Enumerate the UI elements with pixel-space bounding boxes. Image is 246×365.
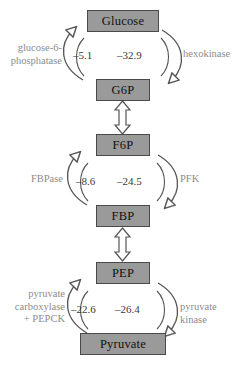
node-glucose: Glucose: [87, 10, 159, 32]
value-fbpase: –8.6: [76, 176, 95, 187]
value-pfk: –24.5: [117, 176, 142, 187]
node-f6p-label: F6P: [113, 139, 134, 152]
enzyme-label-hexokinase: hexokinase: [183, 48, 246, 61]
connector-g6p-f6p-arrow: [115, 101, 130, 134]
value-pyruvate-carboxylase: –22.6: [71, 304, 96, 315]
enzyme-label-glucose-6-phosphatase: glucose-6- phosphatase: [0, 42, 62, 67]
enzyme-label-pyruvate-carboxylase-pepck: pyruvate carboxylase + PEPCK: [0, 288, 65, 326]
arrow-hexokinase-glucose-to-g6p: [162, 30, 181, 80]
metabolic-pathway-diagram: Glucose G6P F6P FBP PEP Pyruvate glucose…: [0, 0, 246, 365]
value-glucose-6-phosphatase: –5.1: [73, 50, 92, 61]
node-f6p: F6P: [96, 134, 150, 156]
node-g6p: G6P: [96, 79, 150, 101]
enzyme-label-fbpase: FBPase: [0, 173, 63, 186]
enzyme-label-pfk: PFK: [180, 173, 246, 186]
node-glucose-label: Glucose: [102, 15, 144, 28]
arrow-pfk-f6p-to-fbp: [158, 155, 177, 205]
node-fbp-label: FBP: [112, 210, 135, 223]
node-pyruvate-label: Pyruvate: [100, 338, 146, 351]
enzyme-label-pyruvate-kinase: pyruvate kinase: [180, 301, 246, 326]
connector-fbp-pep-arrow: [115, 228, 130, 261]
node-fbp: FBP: [96, 205, 150, 227]
arrow-pyruvatekinase-pep-to-pyruvate: [158, 283, 177, 333]
value-hexokinase: –32.9: [117, 50, 142, 61]
value-pyruvate-kinase: –26.4: [115, 304, 140, 315]
node-pep-label: PEP: [112, 267, 134, 280]
node-g6p-label: G6P: [112, 84, 135, 97]
node-pep: PEP: [96, 262, 150, 284]
node-pyruvate: Pyruvate: [80, 333, 166, 355]
